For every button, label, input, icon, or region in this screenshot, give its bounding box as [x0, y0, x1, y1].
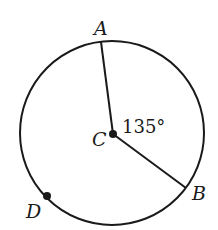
radius-ca [101, 42, 113, 134]
radius-cb [113, 134, 186, 188]
angle-label: 135° [122, 116, 165, 137]
point-d [43, 192, 51, 200]
label-a: A [92, 17, 108, 39]
label-b: B [191, 182, 206, 204]
label-d: D [25, 200, 41, 222]
label-c: C [92, 128, 107, 150]
center-point-c [109, 130, 117, 138]
circle-diagram: A C 135° B D [0, 0, 218, 230]
